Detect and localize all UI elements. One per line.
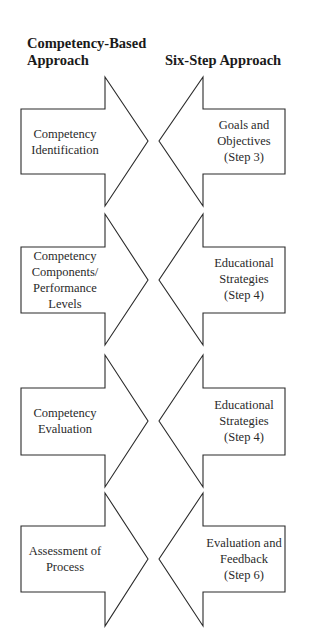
right-step-1: Goals and Objectives (Step 3) — [203, 117, 285, 165]
right-step-3: Educational Strategies (Step 4) — [203, 397, 285, 445]
right-step-4-number: (Step 6) — [203, 567, 285, 583]
right-step-1-number: (Step 3) — [203, 149, 285, 165]
right-step-3-label: Educational Strategies — [203, 397, 285, 429]
left-step-3-label: Competency Evaluation — [22, 405, 108, 437]
left-step-4-label: Assessment of Process — [22, 543, 108, 575]
right-step-4: Evaluation and Feedback (Step 6) — [203, 535, 285, 583]
right-step-4-label: Evaluation and Feedback — [203, 535, 285, 567]
right-step-1-label: Goals and Objectives — [203, 117, 285, 149]
left-step-2-label: Competency Components/ Performance Level… — [22, 248, 108, 312]
right-step-3-number: (Step 4) — [203, 429, 285, 445]
right-step-2-number: (Step 4) — [203, 287, 285, 303]
left-step-1-label: Competency Identification — [22, 126, 108, 158]
right-step-2: Educational Strategies (Step 4) — [203, 255, 285, 303]
right-step-2-label: Educational Strategies — [203, 255, 285, 287]
